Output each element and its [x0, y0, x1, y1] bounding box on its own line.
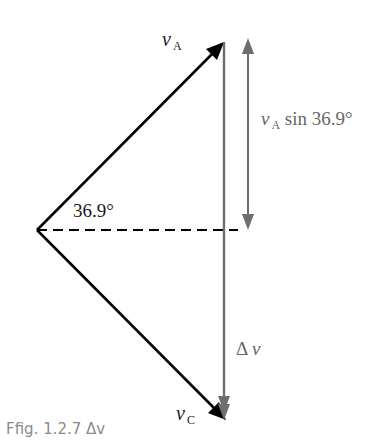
label-vc-sub: C [187, 413, 195, 427]
label-delta-symbol: Δ [236, 338, 247, 359]
label-va-sub: A [173, 39, 182, 53]
vector-vc [37, 230, 222, 416]
label-component-rest: sin 36.9° [285, 108, 353, 129]
figure-caption: Ffig. 1.2.7 Δv [6, 420, 105, 438]
label-vc: vC [176, 402, 195, 425]
vector-va [37, 44, 222, 230]
label-component: vA sin 36.9° [261, 108, 353, 130]
label-vc-v: v [176, 402, 185, 424]
label-component-v: v [261, 108, 269, 129]
label-component-sub: A [271, 118, 280, 132]
label-delta-v: v [252, 338, 260, 359]
component-arrow-up [242, 38, 254, 54]
label-va: vA [162, 28, 182, 51]
label-va-v: v [162, 28, 171, 50]
label-angle: 36.9° [73, 200, 114, 222]
label-delta-v: Δ v [236, 338, 260, 360]
vector-diagram [0, 0, 384, 448]
component-arrow-down [242, 214, 254, 230]
